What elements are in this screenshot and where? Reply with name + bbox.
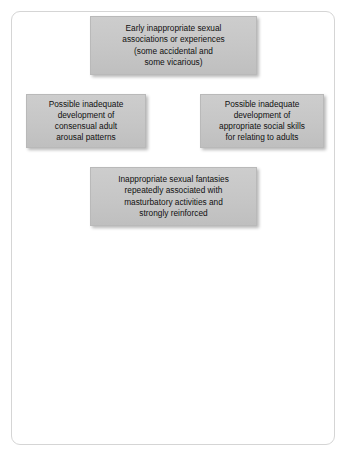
process-box-consensual-arousal: Possible inadequate development of conse… bbox=[26, 94, 146, 148]
process-box-social-skills: Possible inadequate development of appro… bbox=[200, 94, 324, 148]
paraphilia-flowchart-figure: Early inappropriate sexual associations … bbox=[0, 0, 347, 457]
figure-frame bbox=[11, 11, 335, 445]
process-box-sexual-fantasies: Inappropriate sexual fantasies repeatedl… bbox=[90, 167, 257, 226]
process-box-early-associations: Early inappropriate sexual associations … bbox=[90, 16, 257, 75]
